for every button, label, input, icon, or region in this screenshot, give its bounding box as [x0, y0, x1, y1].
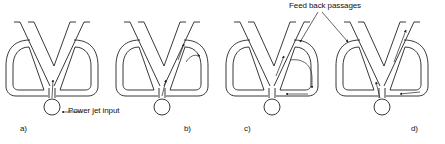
- panel-b: [116, 22, 208, 115]
- feedback-callout-lines: [300, 12, 348, 42]
- fluidic-diagram: [0, 0, 445, 144]
- panel-label-c: c): [244, 124, 250, 133]
- panel-label-b: b): [184, 124, 191, 133]
- power-jet-input-label: Power jet input: [68, 106, 119, 115]
- panel-d: [336, 22, 428, 115]
- panel-label-a: a): [20, 124, 27, 133]
- feedback-passages-label: Feed back passages: [289, 1, 361, 10]
- panel-label-d: d): [411, 124, 418, 133]
- panel-a: [6, 22, 98, 115]
- panel-c: [226, 22, 318, 115]
